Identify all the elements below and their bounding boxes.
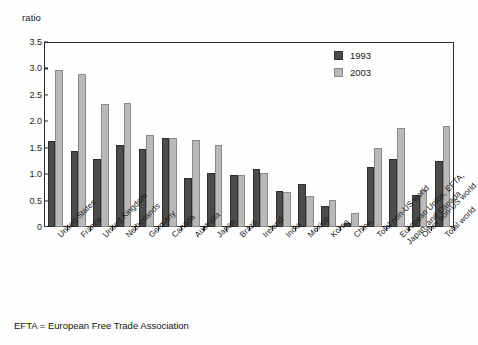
legend: 1993 2003 — [334, 48, 371, 82]
legend-label-2003: 2003 — [350, 67, 371, 78]
legend-swatch-2003 — [334, 68, 343, 77]
x-axis-tick-label: Mexico — [306, 214, 331, 239]
legend-swatch-1993 — [334, 51, 343, 60]
x-axis-tick-label: Japan — [215, 217, 237, 239]
x-axis-tick-label: Ireland — [261, 215, 285, 239]
legend-item-2003: 2003 — [334, 65, 371, 79]
x-axis-tick-label: Brazil — [238, 218, 259, 239]
x-axis-tick-label: Korea — [329, 217, 351, 239]
legend-label-1993: 1993 — [350, 50, 371, 61]
legend-item-1993: 1993 — [334, 48, 371, 62]
footnote: EFTA = European Free Trade Association — [14, 320, 189, 331]
x-axis-tick-label: India — [284, 220, 303, 239]
x-axis-tick-label: China — [352, 218, 374, 240]
